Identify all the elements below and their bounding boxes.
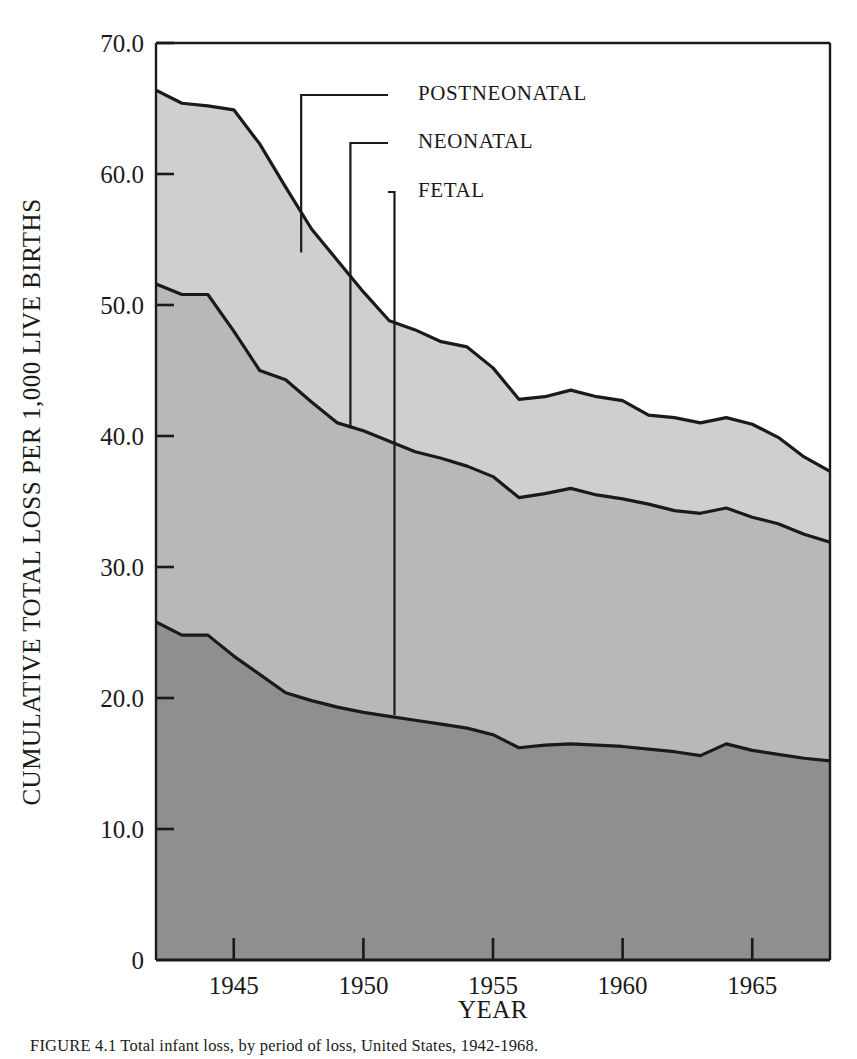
y-tick-label: 50.0 [100, 292, 144, 319]
x-tick-label: 1955 [468, 972, 518, 999]
y-axis-tick-labels: 010.020.030.040.050.060.070.0 [100, 30, 144, 974]
figure-container: 010.020.030.040.050.060.070.0 1945195019… [0, 0, 857, 1059]
x-tick-label: 1950 [338, 972, 388, 999]
y-axis-title: CUMULATIVE TOTAL LOSS PER 1,000 LIVE BIR… [18, 198, 45, 805]
stacked-area-chart: 010.020.030.040.050.060.070.0 1945195019… [0, 0, 857, 1059]
x-tick-label: 1960 [598, 972, 648, 999]
series-label-postneonatal: POSTNEONATAL [418, 81, 587, 105]
x-tick-label: 1945 [209, 972, 259, 999]
y-tick-label: 20.0 [100, 685, 144, 712]
x-axis-tick-labels: 19451950195519601965 [209, 972, 777, 999]
y-tick-label: 30.0 [100, 554, 144, 581]
series-label-neonatal: NEONATAL [418, 129, 533, 153]
figure-caption: FIGURE 4.1 Total infant loss, by period … [30, 1036, 830, 1056]
x-tick-label: 1965 [727, 972, 777, 999]
y-tick-label: 70.0 [100, 30, 144, 57]
x-axis-title: YEAR [458, 996, 528, 1023]
y-tick-label: 0 [132, 947, 145, 974]
series-label-fetal: FETAL [418, 178, 485, 202]
y-tick-label: 10.0 [100, 816, 144, 843]
y-tick-label: 60.0 [100, 161, 144, 188]
y-tick-label: 40.0 [100, 423, 144, 450]
